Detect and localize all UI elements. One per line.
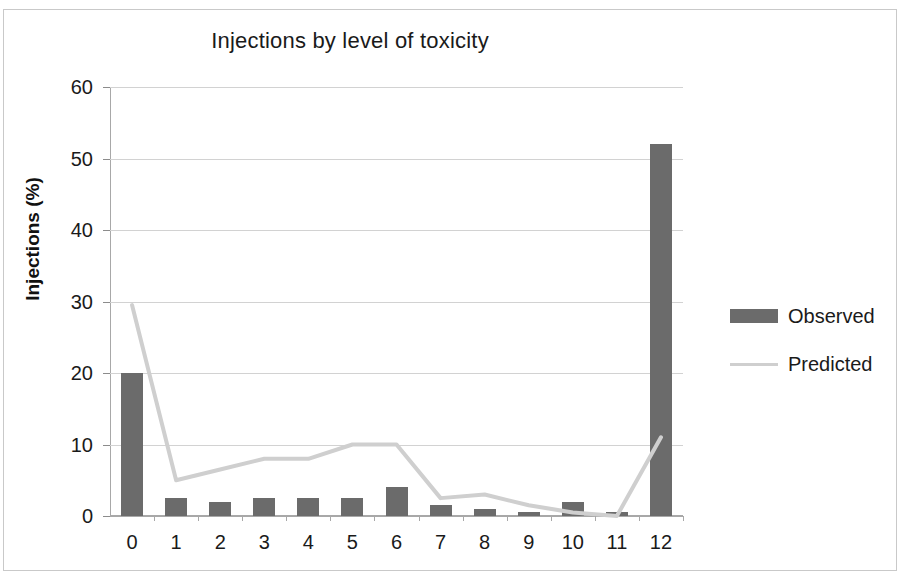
x-tick-label-12: 12 xyxy=(650,531,672,554)
x-tick-label-6: 6 xyxy=(391,531,402,554)
x-tick-mark-11 xyxy=(639,516,640,521)
y-axis-title: Injections (%) xyxy=(22,159,44,319)
legend-label-predicted: Predicted xyxy=(788,353,873,376)
legend-item-predicted: Predicted xyxy=(730,340,890,388)
y-tick-mark-50 xyxy=(103,159,110,160)
x-tick-mark-0 xyxy=(154,516,155,521)
y-tick-label-50: 50 xyxy=(49,147,93,170)
line-series-predicted xyxy=(110,87,683,516)
x-tick-mark-5 xyxy=(374,516,375,521)
x-tick-mark-1 xyxy=(198,516,199,521)
x-tick-label-1: 1 xyxy=(171,531,182,554)
chart-legend: Observed Predicted xyxy=(730,292,890,388)
legend-line-swatch-icon xyxy=(730,357,778,371)
y-tick-label-30: 30 xyxy=(49,290,93,313)
y-tick-mark-20 xyxy=(103,373,110,374)
x-tick-label-8: 8 xyxy=(479,531,490,554)
y-tick-label-10: 10 xyxy=(49,433,93,456)
x-tick-mark-3 xyxy=(286,516,287,521)
y-tick-mark-40 xyxy=(103,230,110,231)
x-tick-label-7: 7 xyxy=(435,531,446,554)
legend-item-observed: Observed xyxy=(730,292,890,340)
x-tick-mark-4 xyxy=(330,516,331,521)
x-tick-mark-10 xyxy=(595,516,596,521)
plot-area-wrapper: 0102030405060 0123456789101112 xyxy=(110,87,683,516)
x-tick-label-11: 11 xyxy=(606,531,627,554)
y-tick-mark-0 xyxy=(103,516,110,517)
legend-label-observed: Observed xyxy=(788,305,875,328)
x-tick-mark-2 xyxy=(242,516,243,521)
x-tick-label-4: 4 xyxy=(303,531,314,554)
x-tick-label-5: 5 xyxy=(347,531,358,554)
x-tick-label-9: 9 xyxy=(523,531,534,554)
y-tick-label-0: 0 xyxy=(49,505,93,528)
predicted-line-path xyxy=(132,305,661,516)
legend-bar-swatch-icon xyxy=(730,309,778,323)
x-tick-mark-12 xyxy=(683,516,684,521)
x-tick-label-0: 0 xyxy=(126,531,137,554)
chart-title: Injections by level of toxicity xyxy=(0,28,700,54)
x-tick-mark-6 xyxy=(419,516,420,521)
y-tick-mark-30 xyxy=(103,302,110,303)
x-tick-label-10: 10 xyxy=(562,531,584,554)
chart-figure: Injections by level of toxicity Injectio… xyxy=(0,0,903,578)
x-tick-mark-8 xyxy=(507,516,508,521)
x-tick-label-3: 3 xyxy=(259,531,270,554)
x-tick-label-2: 2 xyxy=(215,531,226,554)
y-tick-mark-10 xyxy=(103,445,110,446)
x-tick-mark-9 xyxy=(551,516,552,521)
y-tick-mark-60 xyxy=(103,87,110,88)
y-tick-label-20: 20 xyxy=(49,362,93,385)
x-tick-mark-7 xyxy=(463,516,464,521)
y-tick-label-40: 40 xyxy=(49,219,93,242)
y-tick-label-60: 60 xyxy=(49,76,93,99)
